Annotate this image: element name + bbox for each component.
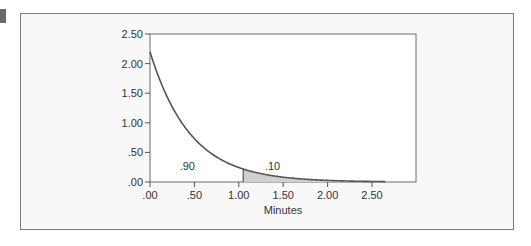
- x-tick-label: 1.00: [228, 189, 249, 201]
- x-tick-label: 2.50: [361, 189, 382, 201]
- area-probability-label: .90: [180, 160, 195, 172]
- x-tick-label: .50: [187, 189, 202, 201]
- y-tick-label: 1.00: [122, 117, 143, 129]
- y-axis: .00.501.001.502.002.50: [122, 28, 150, 188]
- x-tick-label: 2.00: [317, 189, 338, 201]
- y-tick-label: 2.50: [122, 28, 143, 40]
- y-tick-label: .50: [128, 146, 143, 158]
- y-tick-label: 1.50: [122, 87, 143, 99]
- x-tick-label: 1.50: [272, 189, 293, 201]
- x-tick-label: .00: [142, 189, 157, 201]
- area-probability-label: .10: [265, 160, 280, 172]
- x-axis-label: Minutes: [264, 204, 303, 216]
- y-tick-label: 2.00: [122, 58, 143, 70]
- exponential-density-chart: .00.501.001.502.002.50 .00.501.001.502.0…: [0, 0, 531, 246]
- y-tick-label: .00: [128, 176, 143, 188]
- x-axis: .00.501.001.502.002.50: [142, 182, 382, 201]
